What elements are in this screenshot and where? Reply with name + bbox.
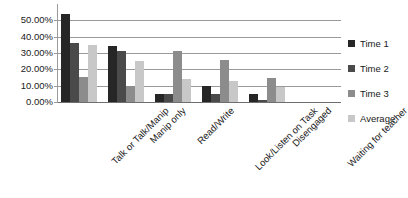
bar	[126, 86, 135, 102]
legend-swatch-icon	[348, 90, 355, 97]
bar	[88, 45, 97, 102]
x-tick-label: Read/Write	[195, 105, 236, 146]
legend-item[interactable]: Time 2	[348, 63, 408, 74]
bar	[258, 100, 267, 102]
y-axis: 0.00%10.00%20.00%30.00%40.00%50.00%	[0, 0, 56, 102]
bar	[202, 86, 211, 102]
bar-group	[108, 4, 144, 102]
legend-label: Time 2	[360, 63, 389, 74]
y-tick-label: 20.00%	[21, 64, 53, 74]
bar-group	[296, 4, 332, 102]
y-tick-label: 30.00%	[21, 48, 53, 58]
bars-layer	[58, 4, 341, 102]
bar	[135, 61, 144, 102]
legend-swatch-icon	[348, 40, 355, 47]
bar	[79, 77, 88, 102]
bar	[276, 87, 285, 102]
legend-item[interactable]: Time 3	[348, 88, 408, 99]
legend-label: Time 3	[360, 88, 389, 99]
bar-group	[202, 4, 238, 102]
bar	[249, 94, 258, 102]
bar-group	[155, 4, 191, 102]
bar	[164, 94, 173, 102]
bar	[173, 51, 182, 102]
bar-group	[249, 4, 285, 102]
y-tick-label: 40.00%	[21, 32, 53, 42]
legend-label: Time 1	[360, 38, 389, 49]
y-tick-label: 50.00%	[21, 15, 53, 25]
bar-group	[61, 4, 97, 102]
legend-item[interactable]: Time 1	[348, 38, 408, 49]
bar	[211, 94, 220, 102]
bar	[70, 43, 79, 102]
legend-label: Average	[360, 113, 395, 124]
x-tick-label: Look/Listen on Task	[253, 105, 320, 172]
bar	[61, 14, 70, 102]
legend-item[interactable]: Average	[348, 113, 408, 124]
y-tick-label: 10.00%	[21, 81, 53, 91]
legend: Time 1Time 2Time 3Average	[348, 38, 408, 138]
plot-area	[57, 4, 341, 102]
bar-chart: 0.00%10.00%20.00%30.00%40.00%50.00% Talk…	[0, 0, 408, 198]
bar	[229, 81, 238, 102]
legend-swatch-icon	[348, 115, 355, 122]
y-tick-label: 0.00%	[26, 97, 53, 107]
bar	[117, 51, 126, 102]
bar	[108, 46, 117, 102]
bar	[155, 94, 164, 102]
bar	[220, 60, 229, 102]
bar	[182, 79, 191, 102]
legend-swatch-icon	[348, 65, 355, 72]
bar	[267, 78, 276, 103]
